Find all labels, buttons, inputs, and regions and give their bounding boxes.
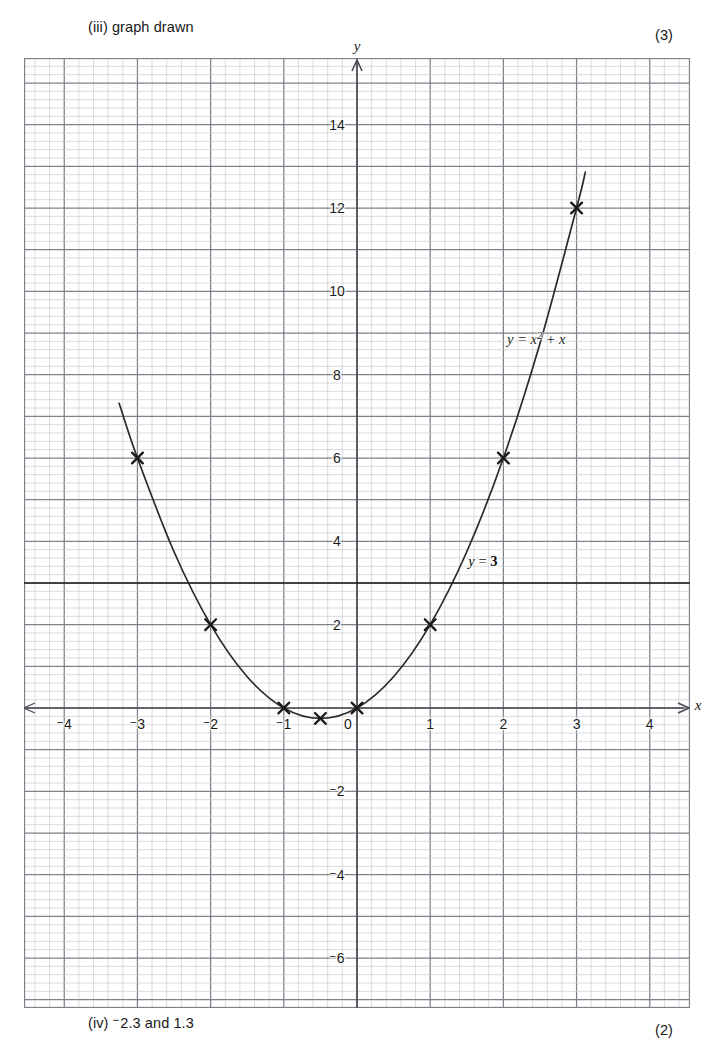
y-axis-tick-label: 8 xyxy=(333,367,341,383)
x-axis-tick-label: 0 xyxy=(344,716,352,732)
y-axis-tick-label: 14 xyxy=(329,117,345,133)
footer-part-value: 2.3 and 1.3 xyxy=(120,1015,194,1031)
footer-part-prefix: (iv) xyxy=(88,1015,113,1031)
tick-value: 1 xyxy=(426,716,434,732)
y-axis-tick-label: −4 xyxy=(330,866,345,883)
negative-sign: − xyxy=(330,950,337,962)
tick-value: 8 xyxy=(333,367,341,383)
data-point-marker xyxy=(205,619,216,630)
x-axis-name: x xyxy=(695,697,702,714)
data-point-marker xyxy=(498,453,509,464)
negative-sign: − xyxy=(330,783,337,795)
footer-part-label: (iv) −2.3 and 1.3 xyxy=(88,1013,194,1031)
y-axis-tick-label: −6 xyxy=(330,950,345,967)
data-point-marker xyxy=(132,453,143,464)
tick-value: 4 xyxy=(337,867,345,883)
negative-sign: − xyxy=(276,716,283,728)
tick-value: 12 xyxy=(329,200,345,216)
y-axis-tick-label: 6 xyxy=(333,450,341,466)
curve-equation-label: y = x2 + x xyxy=(507,330,565,349)
x-axis-tick-label: 4 xyxy=(646,716,654,732)
x-axis-tick-label: 3 xyxy=(573,716,581,732)
y-axis-tick-label: 10 xyxy=(329,283,345,299)
tick-value: 0 xyxy=(344,716,352,732)
negative-sign: − xyxy=(57,716,64,728)
tick-value: 6 xyxy=(337,950,345,966)
negative-sign: − xyxy=(130,716,137,728)
y-axis-tick-label: 4 xyxy=(333,533,341,549)
data-point-marker xyxy=(425,619,436,630)
header-part-label: (iii) graph drawn xyxy=(88,19,194,35)
reference-line-label: y = 3 xyxy=(468,553,497,570)
x-axis-tick-label: −2 xyxy=(203,716,218,733)
tick-value: 4 xyxy=(64,716,72,732)
tick-value: 3 xyxy=(137,716,145,732)
worksheet-page: (iii) graph drawn (3) −4−3−2−10123414121… xyxy=(0,0,712,1053)
x-axis-tick-label: 2 xyxy=(499,716,507,732)
y-axis-name: y xyxy=(354,38,361,55)
tick-value: 14 xyxy=(329,117,345,133)
tick-value: 4 xyxy=(333,533,341,549)
tick-value: 1 xyxy=(284,716,292,732)
x-axis-tick-label: −1 xyxy=(276,716,291,733)
y-axis-tick-label: 2 xyxy=(333,617,341,633)
footer-marks-allocation: (2) xyxy=(655,1022,673,1038)
tick-value: 10 xyxy=(329,283,345,299)
x-axis-tick-label: −3 xyxy=(130,716,145,733)
y-axis-tick-label: −2 xyxy=(330,783,345,800)
data-point-marker xyxy=(571,203,582,214)
graph-plot-layer xyxy=(24,58,690,1008)
y-axis-tick-label: 12 xyxy=(329,200,345,216)
x-axis-tick-label: −4 xyxy=(57,716,72,733)
graph-plate: −4−3−2−1012341412108642−2−4−6yxy = x2 + … xyxy=(24,58,690,1008)
negative-sign: − xyxy=(203,716,210,728)
header-marks-allocation: (3) xyxy=(655,27,673,43)
footer-negative-sign: − xyxy=(113,1013,120,1027)
tick-value: 2 xyxy=(499,716,507,732)
tick-value: 4 xyxy=(646,716,654,732)
tick-value: 6 xyxy=(333,450,341,466)
negative-sign: − xyxy=(330,866,337,878)
tick-value: 2 xyxy=(210,716,218,732)
tick-value: 2 xyxy=(333,617,341,633)
x-axis-tick-label: 1 xyxy=(426,716,434,732)
tick-value: 2 xyxy=(337,784,345,800)
tick-value: 3 xyxy=(573,716,581,732)
